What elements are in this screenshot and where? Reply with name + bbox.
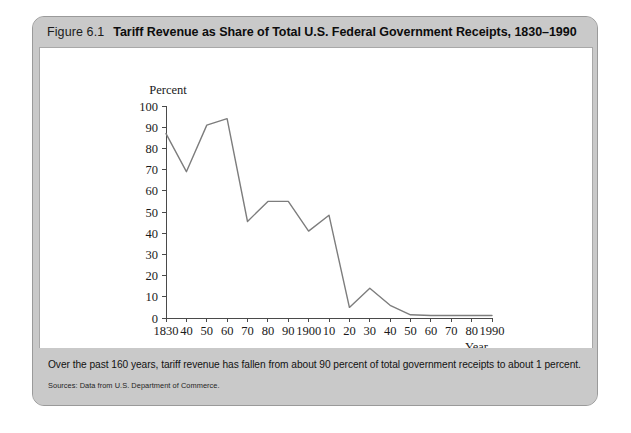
y-axis-ticks: 0102030405060708090100 — [139, 100, 166, 326]
line-chart: 0102030405060708090100 18304050607080901… — [40, 48, 593, 350]
y-tick-label: 20 — [146, 269, 159, 283]
x-tick-label: 80 — [465, 324, 478, 338]
x-tick-label: 50 — [201, 324, 214, 338]
y-tick-label: 30 — [146, 248, 159, 262]
x-tick-label: 1900 — [296, 324, 321, 338]
figure-caption-band: Over the past 160 years, tariff revenue … — [33, 348, 597, 405]
figure-source-text: Sources: Data from U.S. Department of Co… — [48, 381, 581, 390]
figure-header: Figure 6.1 Tariff Revenue as Share of To… — [33, 17, 597, 47]
y-axis-title: Percent — [149, 83, 187, 97]
y-tick-label: 100 — [139, 100, 158, 114]
x-tick-label: 60 — [425, 324, 438, 338]
x-tick-label: 70 — [241, 324, 254, 338]
x-tick-label: 1990 — [480, 324, 505, 338]
y-tick-label: 40 — [146, 227, 159, 241]
x-tick-label: 10 — [323, 324, 336, 338]
y-tick-label: 70 — [146, 163, 159, 177]
x-tick-label: 60 — [221, 324, 234, 338]
x-tick-label: 70 — [445, 324, 458, 338]
y-axis: 0102030405060708090100 — [139, 100, 166, 326]
x-tick-label: 40 — [180, 324, 193, 338]
x-tick-label: 1830 — [154, 324, 179, 338]
x-axis: 1830405060708090190010203040506070801990 — [154, 318, 505, 338]
figure-caption-text: Over the past 160 years, tariff revenue … — [48, 359, 581, 372]
x-tick-label: 50 — [404, 324, 417, 338]
figure-container: Figure 6.1 Tariff Revenue as Share of To… — [32, 16, 598, 406]
y-tick-label: 90 — [146, 121, 159, 135]
x-axis-ticks: 1830405060708090190010203040506070801990 — [154, 318, 505, 338]
figure-title: Tariff Revenue as Share of Total U.S. Fe… — [113, 25, 576, 39]
x-tick-label: 40 — [384, 324, 397, 338]
chart-plot-area: 0102030405060708090100 18304050607080901… — [39, 47, 593, 350]
figure-number-label: Figure 6.1 — [47, 25, 104, 39]
x-tick-label: 80 — [262, 324, 275, 338]
y-tick-label: 50 — [146, 206, 159, 220]
y-tick-label: 10 — [146, 290, 159, 304]
y-tick-label: 60 — [146, 184, 159, 198]
x-tick-label: 30 — [364, 324, 377, 338]
x-tick-label: 90 — [282, 324, 295, 338]
x-tick-label: 20 — [343, 324, 356, 338]
y-tick-label: 80 — [146, 142, 159, 156]
data-series-line — [166, 119, 492, 316]
